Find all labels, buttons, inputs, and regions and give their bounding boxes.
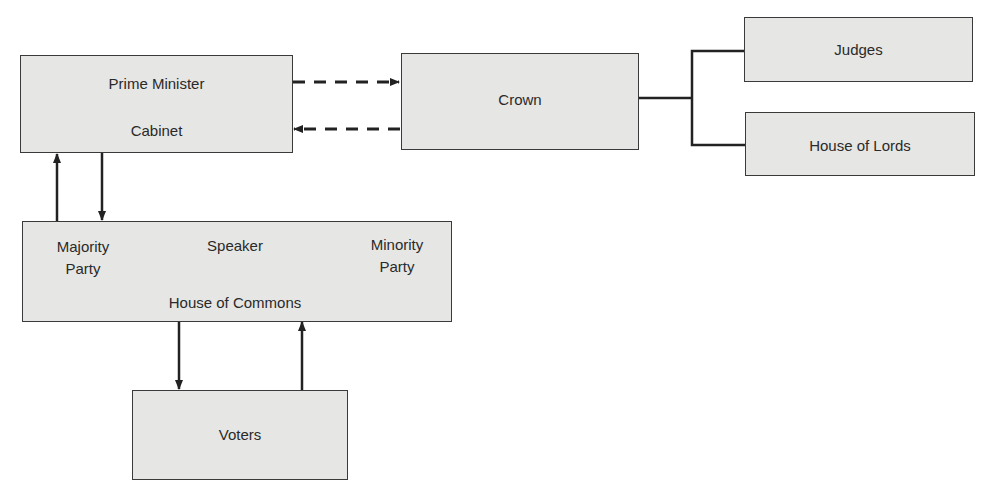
house-of-lords-label: House of Lords <box>809 136 911 155</box>
cabinet-label: Cabinet <box>131 121 183 140</box>
minority-party-label: Party <box>379 257 414 276</box>
node-house-of-lords: House of Lords <box>745 112 975 176</box>
voters-label: Voters <box>219 425 262 444</box>
majority-party-label: Party <box>65 259 100 278</box>
node-judges: Judges <box>744 17 973 82</box>
node-crown: Crown <box>401 53 639 150</box>
minority-label: Minority <box>371 235 424 254</box>
prime-minister-label: Prime Minister <box>109 74 205 93</box>
speaker-label: Speaker <box>207 236 263 255</box>
node-prime-minister-cabinet: Prime Minister Cabinet <box>20 55 293 153</box>
majority-label: Majority <box>57 237 110 256</box>
node-voters: Voters <box>132 390 348 480</box>
house-of-commons-label: House of Commons <box>169 293 302 312</box>
crown-label: Crown <box>498 90 541 109</box>
judges-label: Judges <box>834 40 882 59</box>
connector-to-judges <box>692 51 746 145</box>
node-house-of-commons: Majority Party Speaker Minority Party Ho… <box>22 221 452 322</box>
